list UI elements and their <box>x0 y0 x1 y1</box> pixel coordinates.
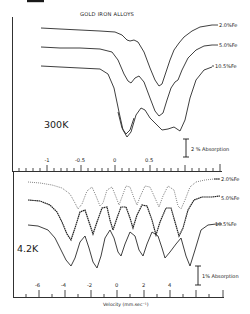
spectrum-300k-5pct <box>41 45 212 116</box>
panel-300k: GOLD IRON ALLOYS <box>12 11 237 172</box>
spectrum-300k-2pct <box>41 25 212 86</box>
bottom-x-tick-label: 2 <box>142 282 145 288</box>
temperature-label-4k: 4.2K <box>17 243 39 254</box>
corner-mark <box>27 0 44 2</box>
series-label-300k-10pct: 10.5%Fe <box>215 63 237 69</box>
panel-4k: -6 -4 -2 0 2 4 Velocity (mm.sec⁻¹) 2.0%F… <box>13 172 239 307</box>
bottom-x-tick-label: -4 <box>61 282 67 288</box>
bottom-x-tick-label: 4 <box>168 282 172 288</box>
x-axis-label: Velocity (mm.sec⁻¹) <box>103 302 149 307</box>
spectrum-4k-10pct <box>28 224 222 268</box>
bottom-x-ticks <box>26 290 223 297</box>
series-label-4k-5pct: 5.0%Fe <box>221 195 239 201</box>
mossbauer-figure: GOLD IRON ALLOYS <box>0 0 250 314</box>
series-label-4k-10pct: 10.5%Fe <box>215 221 237 227</box>
temperature-label-300k: 300K <box>44 119 69 130</box>
series-label-300k-5pct: 5.0%Fe <box>219 42 237 48</box>
bottom-x-tick-label: -2 <box>87 282 92 288</box>
bottom-x-tick-label: -6 <box>35 282 40 288</box>
top-x-tick-label: -1 <box>45 157 50 163</box>
figure-title: GOLD IRON ALLOYS <box>80 11 134 17</box>
spectrum-4k-5pct <box>28 196 220 240</box>
series-label-300k-2pct: 2.0%Fe <box>219 22 237 28</box>
scale-bar-label-300k: 2 % Absorption <box>191 146 229 153</box>
series-label-4k-2pct: 2.0%Fe <box>221 176 239 182</box>
scale-bar-4k <box>195 266 201 285</box>
top-x-ticks <box>19 164 220 171</box>
top-x-tick-label: 0 <box>113 157 116 163</box>
scale-bar-300k <box>183 139 189 157</box>
bottom-x-tick-label: 0 <box>115 282 118 288</box>
top-x-tick-label: -0.5 <box>75 157 85 163</box>
top-x-tick-label: 0.5 <box>145 157 153 163</box>
scale-bar-label-4k: 1% Absorption <box>202 273 239 280</box>
